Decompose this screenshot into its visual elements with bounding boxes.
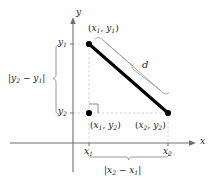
tick-label-y2: y2 (58, 107, 67, 116)
distance-segment (89, 44, 168, 113)
vertical-brace-label: |y2 − y1| (8, 74, 45, 83)
tick-label-x2-sub: 2 (168, 150, 172, 157)
distance-brace (95, 38, 169, 94)
distance-formula-figure: x y y1 y2 x1 x2 (x1, y1) (x1, y2) (x2, y… (0, 0, 216, 185)
tick-label-y2-sub: 2 (63, 110, 67, 117)
x-axis-label: x (200, 137, 205, 146)
point-label-lower-right: (x2, y2) (135, 121, 166, 130)
y-axis-label: y (76, 8, 81, 17)
point-marker-corner (86, 110, 92, 116)
tick-label-y1: y1 (58, 38, 67, 47)
tick-label-x1: x1 (84, 147, 93, 156)
paren-close: ) (115, 23, 119, 33)
tick-label-x2: x2 (163, 147, 172, 156)
horizontal-brace (88, 153, 169, 160)
tick-label-y1-sub: 1 (63, 41, 67, 48)
vertical-brace (53, 45, 59, 114)
distance-label: d (142, 60, 148, 70)
point-label-corner: (x1, y2) (90, 121, 121, 130)
horizontal-brace-label: |x2 − x1| (104, 166, 141, 175)
point-marker-lower-right (165, 110, 171, 116)
tick-label-x1-sub: 1 (89, 150, 93, 157)
x-axis-arrowhead (189, 140, 196, 145)
point-marker-upper-left (86, 41, 92, 47)
point-label-upper-left: (x1, y1) (88, 24, 119, 33)
y-axis-arrowhead (70, 17, 75, 24)
